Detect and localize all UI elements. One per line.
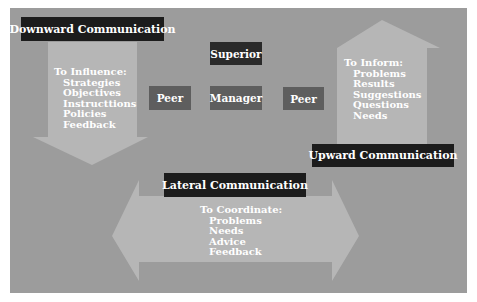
downward-item: Policies bbox=[54, 109, 136, 120]
lateral-heading: To Coordinate: bbox=[200, 205, 282, 216]
upward-item: Needs bbox=[344, 111, 421, 122]
upward-heading: To Inform: bbox=[344, 58, 421, 69]
lateral-communication-label: Lateral Communication bbox=[164, 173, 306, 197]
lateral-content: To Coordinate: Problems Needs Advice Fee… bbox=[200, 205, 282, 258]
manager-node: Manager bbox=[210, 86, 262, 110]
upward-content: To Inform: Problems Results Suggestions … bbox=[344, 58, 421, 121]
upward-item: Questions bbox=[344, 100, 421, 111]
lateral-item: Feedback bbox=[200, 247, 282, 258]
peer-left-node: Peer bbox=[149, 86, 191, 110]
downward-heading: To Influence: bbox=[54, 67, 136, 78]
downward-item: Feedback bbox=[54, 120, 136, 131]
lateral-item: Needs bbox=[200, 226, 282, 237]
downward-communication-label: Downward Communication bbox=[21, 17, 164, 41]
upward-communication-label: Upward Communication bbox=[312, 144, 454, 167]
downward-content: To Influence: Strategies Objectives Inst… bbox=[54, 67, 136, 130]
peer-right-node: Peer bbox=[283, 87, 324, 110]
superior-node: Superior bbox=[210, 42, 262, 65]
downward-item: Objectives bbox=[54, 88, 136, 99]
upward-item: Results bbox=[344, 79, 421, 90]
